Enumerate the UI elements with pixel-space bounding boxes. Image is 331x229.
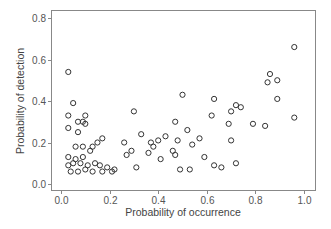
- x-axis: 0.00.20.40.60.81.0: [55, 191, 312, 207]
- y-tick-label: 0.0: [32, 179, 46, 190]
- x-tick-label: 0.8: [249, 195, 263, 206]
- x-tick-label: 0.0: [55, 195, 69, 206]
- x-tick-label: 0.2: [104, 195, 118, 206]
- scatter-chart: 0.00.20.40.60.8 0.00.20.40.60.81.0 Proba…: [0, 0, 331, 229]
- y-axis-title: Probability of detection: [14, 48, 26, 154]
- y-axis: 0.00.20.40.60.8: [32, 13, 51, 190]
- y-tick-label: 0.4: [32, 96, 46, 107]
- plot-area: [52, 11, 316, 191]
- x-tick-label: 0.6: [201, 195, 215, 206]
- y-tick-label: 0.8: [32, 13, 46, 24]
- y-tick-label: 0.2: [32, 138, 46, 149]
- y-tick-label: 0.6: [32, 55, 46, 66]
- x-tick-label: 0.4: [152, 195, 166, 206]
- x-axis-title: Probability of occurrence: [125, 206, 241, 218]
- x-tick-label: 1.0: [298, 195, 312, 206]
